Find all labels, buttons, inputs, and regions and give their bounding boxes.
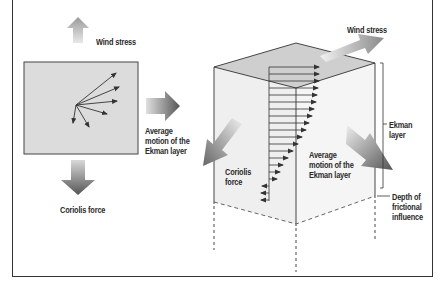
coriolis-force-arrow-left	[61, 160, 95, 195]
average-motion-label-right: Average motion of the Ekman layer	[309, 150, 354, 180]
coriolis-force-label-right: Coriolis force	[225, 167, 251, 187]
surface-plan-view	[24, 62, 138, 154]
depth-of-frictional-influence-label: Depth of frictional influence	[392, 192, 423, 222]
average-motion-label-left: Average motion of the Ekman layer	[145, 126, 190, 156]
average-motion-arrow-left	[146, 91, 180, 121]
wind-stress-label-right: Wind stress	[347, 25, 387, 35]
box-left-face	[214, 67, 296, 224]
ekman-diagram	[0, 0, 445, 290]
wind-stress-label-left: Wind stress	[96, 37, 136, 47]
wind-stress-arrow-left	[67, 17, 89, 43]
coriolis-force-label-left: Coriolis force	[60, 205, 105, 215]
ekman-layer-label: Ekman layer	[389, 120, 412, 140]
